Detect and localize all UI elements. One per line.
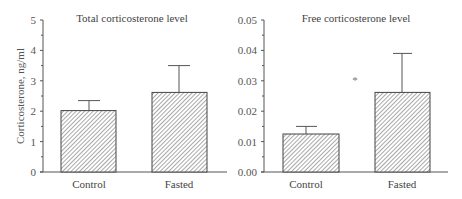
y-tick-labels: 0 1 2 3 4 5 (31, 14, 37, 178)
y-tick-labels: 0.00 0.01 0.02 0.03 0.04 0.05 (238, 14, 258, 178)
bar-fasted (375, 53, 430, 172)
bar-fasted (152, 66, 207, 172)
svg-text:5: 5 (31, 14, 37, 26)
chart-title: Total corticosterone level (76, 12, 188, 24)
svg-text:0.02: 0.02 (238, 105, 257, 117)
bar-control (283, 126, 339, 172)
svg-text:1: 1 (31, 136, 37, 148)
svg-text:0.04: 0.04 (238, 44, 258, 56)
svg-text:0.03: 0.03 (238, 75, 258, 87)
svg-text:4: 4 (31, 44, 37, 56)
x-label-control: Control (72, 178, 106, 190)
x-label-fasted: Fasted (165, 178, 194, 190)
chart-title: Free corticosterone level (302, 12, 411, 24)
svg-text:0.01: 0.01 (238, 136, 257, 148)
bar-control (61, 101, 116, 172)
significance-asterisk: * (352, 74, 358, 86)
x-label-fasted: Fasted (388, 178, 417, 190)
figure: Corticosterone, ng/ml Total corticostero… (0, 0, 462, 199)
svg-text:2: 2 (31, 105, 37, 117)
svg-text:3: 3 (31, 75, 37, 87)
svg-text:0: 0 (31, 166, 37, 178)
y-axis-label: Corticosterone, ng/ml (14, 48, 26, 144)
chart-free-corticosterone: Free corticosterone level 0.00 0.01 0.0 (238, 12, 448, 190)
chart-total-corticosterone: Corticosterone, ng/ml Total corticostero… (14, 12, 227, 190)
x-label-control: Control (289, 178, 323, 190)
svg-text:0.05: 0.05 (238, 14, 258, 26)
svg-text:0.00: 0.00 (238, 166, 258, 178)
